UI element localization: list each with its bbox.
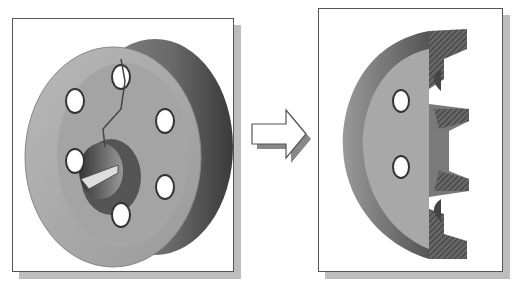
flange-full-illustration xyxy=(13,19,233,271)
right-arrow-icon xyxy=(248,104,314,166)
flange-section-illustration xyxy=(319,9,502,271)
full-part-panel xyxy=(12,18,234,272)
section-view-panel xyxy=(318,8,503,272)
